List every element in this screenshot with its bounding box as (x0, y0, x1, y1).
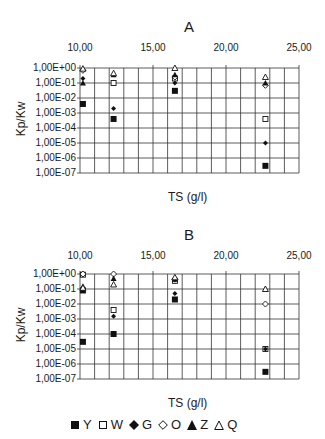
legend-item-y: Y (70, 417, 92, 432)
data-point-z (111, 276, 117, 282)
legend-label: Q (227, 417, 237, 432)
legend-label: O (171, 417, 181, 432)
data-point-g (111, 106, 116, 111)
data-point-y (80, 339, 86, 345)
data-point-w (111, 307, 116, 312)
legend-item-g: G (129, 417, 152, 432)
filled-triangle-icon (187, 420, 197, 430)
data-point-y (111, 116, 117, 122)
data-point-z (172, 72, 178, 78)
data-point-g (172, 291, 177, 296)
data-point-g (263, 141, 268, 146)
data-point-o (262, 301, 268, 307)
legend-item-o: O (158, 417, 181, 432)
data-point-y (172, 296, 178, 302)
data-point-y (111, 331, 117, 337)
legend-item-z: Z (187, 417, 208, 432)
data-point-q (111, 70, 117, 76)
legend-label: W (111, 417, 123, 432)
data-point-y (172, 88, 178, 94)
legend-label: Z (200, 417, 208, 432)
filled-square-icon (70, 420, 80, 430)
plot-canvas (0, 0, 325, 439)
data-point-q (111, 281, 117, 287)
chart-a-points (80, 65, 269, 169)
legend-item-q: Q (214, 417, 237, 432)
data-point-y (262, 163, 268, 169)
data-point-g (111, 314, 116, 319)
data-point-w (111, 81, 116, 86)
data-point-w (263, 116, 268, 121)
open-square-icon (98, 420, 108, 430)
filled-diamond-icon (129, 420, 139, 430)
legend-label: G (142, 417, 152, 432)
legend-label: Y (83, 417, 92, 432)
data-point-q (80, 66, 86, 72)
data-point-q (172, 274, 178, 280)
legend: Y W G O Z Q (70, 417, 237, 432)
data-point-y (80, 101, 86, 107)
data-point-q (262, 74, 268, 80)
open-diamond-icon (158, 420, 168, 430)
chart-b-points (80, 271, 269, 375)
legend-item-w: W (98, 417, 123, 432)
open-triangle-icon (214, 420, 224, 430)
data-point-y (262, 369, 268, 375)
